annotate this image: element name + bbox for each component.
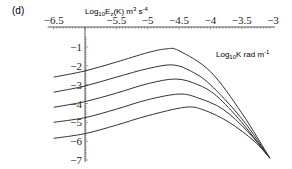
x-axis-label: Log10K rad m-1 bbox=[216, 49, 270, 60]
data-series bbox=[54, 48, 270, 158]
x-tick-label: −5 bbox=[142, 14, 154, 26]
x-tick-label: −4 bbox=[204, 14, 216, 26]
series-line bbox=[54, 48, 270, 158]
x-tick-label: −5.5 bbox=[106, 14, 126, 26]
y-tick-label: −6 bbox=[70, 135, 82, 147]
tick-labels: −6.5−5.5−5−4.5−4−3.5−3−1−2−3−4−5−6−7 bbox=[44, 14, 280, 166]
x-tick-label: −4.5 bbox=[169, 14, 189, 26]
x-tick-label: −3.5 bbox=[232, 14, 252, 26]
chart-canvas: (d) Log10Ez(K) m3 s-4 Log10K rad m-1 −6.… bbox=[0, 0, 292, 169]
panel-label: (d) bbox=[12, 5, 24, 16]
y-tick-label: −1 bbox=[70, 41, 82, 53]
y-tick-label: −2 bbox=[70, 60, 82, 72]
y-tick-label: −7 bbox=[70, 154, 82, 166]
x-tick-label: −3 bbox=[267, 14, 279, 26]
x-tick-label: −6.5 bbox=[44, 14, 64, 26]
